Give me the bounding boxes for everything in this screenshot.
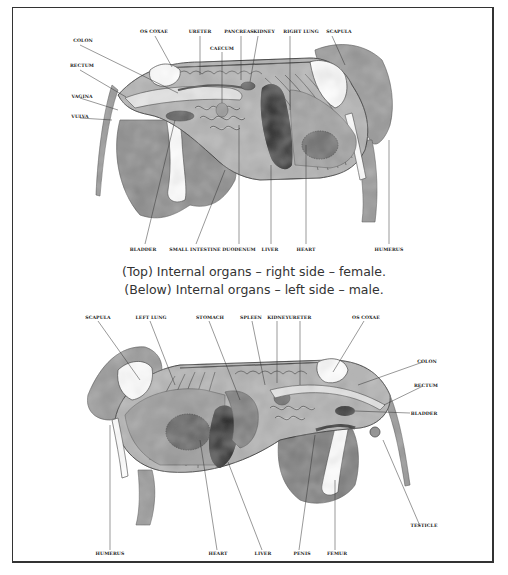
label-heart-top: HEART [296,247,315,252]
front-leg [136,470,155,525]
label-left-lung-bottom: LEFT LUNG [135,315,166,320]
label-ureter-bottom: URETER [289,315,312,320]
label-humerus-top: HUMERUS [375,247,404,252]
label-humerus-bottom: HUMERUS [96,551,125,556]
label-scapula-top: SCAPULA [326,29,352,34]
caecum-organ [216,103,228,117]
label-small-intestine-top: SMALL INTESTINE [169,247,220,252]
label-scapula-bottom: SCAPULA [85,315,111,320]
bladder-organ [335,406,355,416]
label-vagina-top: VAGINA [71,94,92,99]
label-right-lung-top: RIGHT LUNG [283,29,318,34]
label-heart-bottom: HEART [208,551,227,556]
label-rectum-bottom: RECTUM [414,383,438,388]
bottom-cat-illustration [87,347,410,525]
label-colon-top: COLON [73,38,93,43]
bladder-organ [166,111,194,121]
label-femur-bottom: FEMUR [327,551,347,556]
label-pancreas-top: PANCREAS [224,29,254,34]
label-bladder-bottom: BLADDER [411,411,438,416]
kidney-organ [241,82,255,90]
tail [96,85,118,196]
label-caecum-top: CAECUM [210,46,234,51]
label-rectum-top: RECTUM [70,63,94,68]
label-duodenum-top: DUODENUM [222,247,256,252]
label-ureter-top: URETER [189,29,212,34]
label-liver-bottom: LIVER [255,551,272,556]
label-liver-top: LIVER [262,247,279,252]
label-kidney-top: KIDNEY [253,29,275,34]
heart-organ [302,131,338,159]
label-bladder-top: BLADDER [130,247,157,252]
label-os-coxae-bottom: OS COXAE [352,315,380,320]
label-spleen-bottom: SPLEEN [240,315,262,320]
label-vulva-top: VULVA [71,114,89,119]
label-penis-bottom: PENIS [293,551,310,556]
label-testicle-bottom: TESTICLE [411,523,438,528]
heart-organ [166,414,210,450]
label-colon-bottom: COLON [417,359,437,364]
label-os-coxae-top: OS COXAE [140,29,168,34]
testicle-organ [370,427,380,437]
label-stomach-bottom: STOMACH [196,315,224,320]
top-cat-illustration [96,45,392,222]
caption-line-below: (Below) Internal organs – left side – ma… [0,282,508,297]
label-kidney-bottom: KIDNEY [267,315,289,320]
caption-line-top: (Top) Internal organs – right side – fem… [0,264,508,279]
